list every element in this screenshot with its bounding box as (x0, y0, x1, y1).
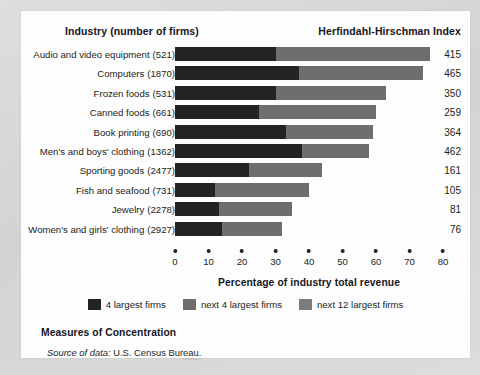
bar-segment-next4 (219, 202, 293, 216)
stacked-bar (175, 163, 443, 177)
hhi-value: 462 (431, 146, 461, 157)
x-axis-title: Percentage of industry total revenue (175, 277, 443, 288)
legend-swatch (183, 299, 196, 310)
industry-name: Canned foods (90, 107, 150, 118)
hhi-value: 105 (431, 184, 461, 195)
bar-row-label: Sporting goods(2477) (80, 165, 175, 176)
bar-segment-next4 (215, 183, 309, 197)
x-axis-tick-label: 60 (371, 256, 382, 267)
bar-row-label: Audio and video equipment(521) (33, 49, 175, 60)
x-axis-tick: 20 (237, 249, 248, 267)
x-axis-tick-mark (206, 249, 210, 253)
hhi-value: 76 (431, 223, 461, 234)
bar-segment-top4 (175, 105, 259, 119)
bar-segment-top4 (175, 125, 286, 139)
industry-name: Men's and boys' clothing (40, 146, 144, 157)
bar-row-label: Men's and boys' clothing(1362) (40, 146, 175, 157)
industry-name: Fish and seafood (76, 184, 150, 195)
x-axis-tick-label: 10 (203, 256, 214, 267)
chart-header: Industry (number of firms) Herfindahl-Hi… (21, 25, 470, 41)
bar-row-label: Frozen foods(531) (94, 87, 175, 98)
legend-swatch (88, 299, 101, 310)
bar-row: Frozen foods(531)350 (21, 86, 470, 100)
hhi-value: 161 (431, 165, 461, 176)
industry-firm-count: (2477) (147, 165, 175, 176)
industry-firm-count: (690) (153, 126, 175, 137)
hhi-value: 465 (431, 68, 461, 79)
hhi-value: 350 (431, 87, 461, 98)
x-axis-tick-label: 80 (438, 256, 449, 267)
chart-footer: Measures of Concentration Source of data… (41, 327, 451, 358)
bar-row: Canned foods(661)259 (21, 105, 470, 119)
stacked-bar (175, 86, 443, 100)
bar-segment-top4 (175, 222, 222, 236)
bar-row-label: Computers(1870) (97, 68, 175, 79)
legend-swatch (299, 299, 312, 310)
x-axis-tick: 10 (203, 249, 214, 267)
industry-firm-count: (2278) (147, 204, 175, 215)
stacked-bar (175, 125, 443, 139)
footer-source: Source of data: U.S. Census Bureau. (47, 347, 451, 358)
x-axis-tick-mark (340, 249, 344, 253)
bar-segment-top4 (175, 144, 302, 158)
x-axis-tick: 70 (404, 249, 415, 267)
bar-segment-next4 (276, 47, 430, 61)
bar-segment-next4 (302, 144, 369, 158)
industry-name: Women's and girls' clothing (28, 223, 144, 234)
chart-legend: 4 largest firmsnext 4 largest firmsnext … (21, 299, 470, 310)
bar-segment-next4 (276, 86, 387, 100)
stacked-bar (175, 222, 443, 236)
legend-next12: next 12 largest firms (299, 299, 403, 310)
hhi-value: 415 (431, 49, 461, 60)
bar-row: Jewelry(2278)81 (21, 202, 470, 216)
legend-next4: next 4 largest firms (183, 299, 282, 310)
x-axis-tick-label: 30 (270, 256, 281, 267)
stacked-bar (175, 47, 443, 61)
footer-source-text: U.S. Census Bureau. (113, 347, 201, 358)
x-axis-tick-mark (173, 249, 177, 253)
bar-row-label: Women's and girls' clothing(2927) (28, 223, 175, 234)
footer-source-prefix: Source of data: (47, 347, 111, 358)
hhi-value: 259 (431, 107, 461, 118)
bar-row: Women's and girls' clothing(2927)76 (21, 222, 470, 236)
x-axis-tick-mark (240, 249, 244, 253)
industry-name: Frozen foods (94, 87, 150, 98)
industry-firm-count: (1362) (147, 146, 175, 157)
bar-row: Men's and boys' clothing(1362)462 (21, 144, 470, 158)
x-axis-tick-mark (374, 249, 378, 253)
industry-name: Computers (97, 68, 144, 79)
bar-row-label: Book printing(690) (94, 126, 175, 137)
x-axis-tick-mark (307, 249, 311, 253)
industry-firm-count: (731) (153, 184, 175, 195)
x-axis-tick: 80 (438, 249, 449, 267)
industry-name: Audio and video equipment (33, 49, 149, 60)
industry-name: Jewelry (112, 204, 145, 215)
bar-row: Sporting goods(2477)161 (21, 163, 470, 177)
x-axis-tick: 40 (304, 249, 315, 267)
stacked-bar (175, 66, 443, 80)
column-header-hhi: Herfindahl-Hirschman Index (318, 25, 461, 37)
bar-segment-next4 (249, 163, 323, 177)
stacked-bar (175, 202, 443, 216)
x-axis-tick: 30 (270, 249, 281, 267)
legend-label: 4 largest firms (106, 299, 166, 310)
hhi-value: 81 (431, 204, 461, 215)
x-axis-tick-label: 40 (304, 256, 315, 267)
chart-card: Industry (number of firms) Herfindahl-Hi… (21, 11, 470, 358)
bar-segment-top4 (175, 66, 299, 80)
x-axis-tick-label: 0 (172, 256, 177, 267)
bar-segment-top4 (175, 183, 215, 197)
legend-label: next 4 largest firms (201, 299, 282, 310)
industry-name: Book printing (94, 126, 150, 137)
bar-segment-next4 (222, 222, 282, 236)
bar-segment-top4 (175, 47, 276, 61)
bar-row: Computers(1870)465 (21, 66, 470, 80)
x-axis-tick-label: 70 (404, 256, 415, 267)
column-header-industry: Industry (number of firms) (65, 25, 199, 37)
stacked-bar (175, 105, 443, 119)
x-axis-tick: 60 (371, 249, 382, 267)
bar-segment-next4 (299, 66, 423, 80)
bar-segment-top4 (175, 86, 276, 100)
bar-segment-next4 (259, 105, 376, 119)
footer-title: Measures of Concentration (41, 327, 451, 338)
